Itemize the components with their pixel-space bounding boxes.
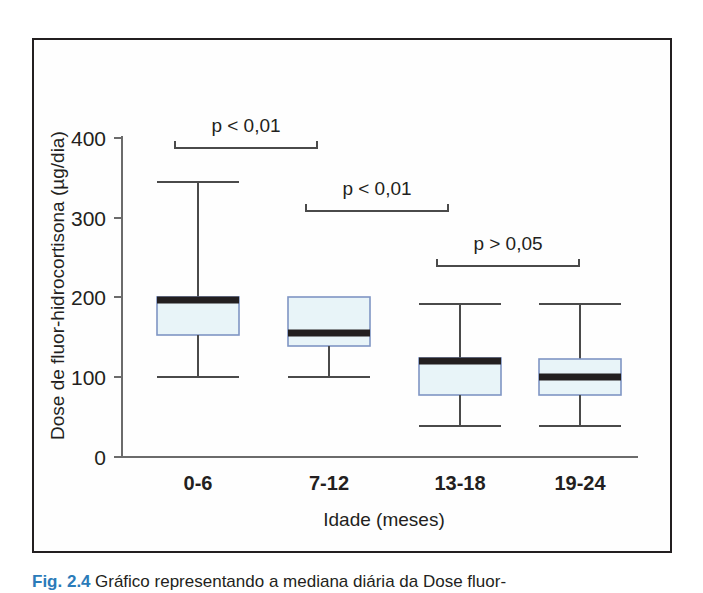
box-group-19-24 (539, 304, 621, 426)
y-tick-label-0: 0 (94, 446, 106, 469)
caption-text: Gráfico representando a mediana diária d… (95, 572, 506, 591)
box-group-13-18 (419, 304, 501, 426)
boxplot-chart: 400 300 200 100 0 Dose de fluor-hidrocor… (34, 40, 674, 555)
x-tick-label-0-6: 0-6 (184, 472, 213, 494)
significance-bracket-3: p > 0,05 (437, 233, 579, 266)
y-axis-title: Dose de fluor-hidrocortisona (µg/dia) (47, 131, 68, 440)
p-value-label-1: p < 0,01 (211, 115, 280, 136)
box-group-7-12 (288, 297, 370, 377)
y-tick-label-200: 200 (71, 286, 106, 309)
y-tick-label-300: 300 (71, 207, 106, 230)
significance-bracket-2: p < 0,01 (306, 178, 448, 211)
x-tick-label-19-24: 19-24 (554, 472, 606, 494)
p-value-label-3: p > 0,05 (473, 233, 542, 254)
significance-bracket-1: p < 0,01 (175, 115, 317, 148)
x-axis-title: Idade (meses) (323, 509, 444, 530)
x-tick-label-7-12: 7-12 (309, 472, 349, 494)
figure-caption: Fig. 2.4 Gráfico representando a mediana… (32, 566, 672, 593)
caption-number: Fig. 2.4 (32, 572, 91, 591)
x-tick-label-13-18: 13-18 (434, 472, 485, 494)
y-axis-ticks (114, 138, 122, 457)
y-tick-label-400: 400 (71, 127, 106, 150)
box-7-12 (288, 297, 370, 346)
y-tick-label-100: 100 (71, 366, 106, 389)
box-group-0-6 (157, 182, 239, 377)
figure-frame: 400 300 200 100 0 Dose de fluor-hidrocor… (32, 38, 672, 553)
p-value-label-2: p < 0,01 (342, 178, 411, 199)
